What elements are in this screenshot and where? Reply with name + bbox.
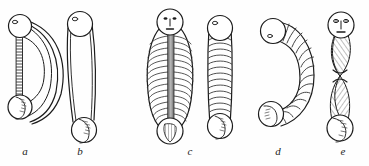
figure-c-broad-group — [147, 9, 193, 144]
figure-caption-a: a — [15, 145, 35, 157]
figure-plate: a b c d e — [0, 0, 369, 166]
figure-caption-e: e — [333, 145, 353, 157]
figure-b-group — [67, 12, 96, 144]
caption-row: a b c d e — [0, 142, 369, 166]
figure-c-narrow-group — [208, 16, 233, 140]
figure-caption-c: c — [180, 145, 200, 157]
figure-d-group — [259, 19, 315, 127]
figure-caption-d: d — [268, 145, 288, 157]
figure-a-group — [8, 15, 63, 125]
figure-caption-b: b — [70, 145, 90, 157]
figure-e-group — [327, 12, 354, 142]
